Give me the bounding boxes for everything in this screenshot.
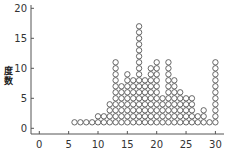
y-tick-label: 15 [14, 33, 27, 44]
dot [166, 66, 171, 71]
dot [136, 102, 141, 107]
dot [213, 96, 218, 101]
dot [207, 120, 212, 125]
dot [113, 60, 118, 65]
dot [136, 96, 141, 101]
dot [107, 108, 112, 113]
dot [172, 96, 177, 101]
dot-plot-chart: 05101520051015202530 度 数 [0, 0, 225, 157]
dot [213, 114, 218, 119]
dot [148, 84, 153, 89]
dot [148, 120, 153, 125]
dot [189, 108, 194, 113]
dot [131, 90, 136, 95]
dot [154, 90, 159, 95]
dot [136, 84, 141, 89]
dot [201, 114, 206, 119]
dot [166, 72, 171, 77]
dot [113, 96, 118, 101]
dot [101, 114, 106, 119]
dot [89, 120, 94, 125]
dot [166, 90, 171, 95]
dot [154, 96, 159, 101]
dot [113, 66, 118, 71]
dot [172, 108, 177, 113]
dot [113, 102, 118, 107]
dot [125, 102, 130, 107]
dot [119, 84, 124, 89]
dot [125, 84, 130, 89]
dot [148, 108, 153, 113]
dot [213, 108, 218, 113]
dot [195, 120, 200, 125]
dot [142, 78, 147, 83]
dot [125, 96, 130, 101]
dot [166, 114, 171, 119]
dot [189, 120, 194, 125]
dot [142, 120, 147, 125]
y-axis-label-bottom: 数 [4, 75, 14, 86]
dot [177, 96, 182, 101]
y-tick-label: 10 [14, 63, 27, 74]
dot [113, 90, 118, 95]
dot [172, 78, 177, 83]
dot [154, 84, 159, 89]
dot [213, 78, 218, 83]
dot [136, 30, 141, 35]
dot [113, 114, 118, 119]
x-tick-label: 30 [209, 139, 222, 150]
dot [125, 108, 130, 113]
dot [183, 102, 188, 107]
dot [177, 102, 182, 107]
dot [148, 78, 153, 83]
dot [125, 72, 130, 77]
dot [131, 78, 136, 83]
dot [78, 120, 83, 125]
dot [213, 66, 218, 71]
dot [195, 114, 200, 119]
dot [213, 120, 218, 125]
dot [142, 84, 147, 89]
dot [136, 72, 141, 77]
dot [136, 42, 141, 47]
dot [131, 96, 136, 101]
dot [136, 36, 141, 41]
axes: 05101520051015202530 [14, 3, 224, 150]
dot [119, 120, 124, 125]
dot [119, 114, 124, 119]
dot [213, 102, 218, 107]
dot [95, 120, 100, 125]
dot [136, 54, 141, 59]
dot [119, 96, 124, 101]
dot [148, 66, 153, 71]
dot [148, 114, 153, 119]
dot [154, 108, 159, 113]
dot [177, 120, 182, 125]
y-tick-label: 5 [21, 93, 27, 104]
dot [201, 120, 206, 125]
dot [113, 108, 118, 113]
dot [101, 120, 106, 125]
dot [183, 108, 188, 113]
dot [142, 108, 147, 113]
dot [142, 114, 147, 119]
dot [166, 78, 171, 83]
dot [113, 84, 118, 89]
x-tick-label: 0 [36, 139, 42, 150]
dot [154, 72, 159, 77]
dot [160, 96, 165, 101]
dot [119, 108, 124, 113]
dot [189, 102, 194, 107]
x-tick-label: 20 [150, 139, 163, 150]
dot [125, 114, 130, 119]
dot [213, 84, 218, 89]
dot [160, 120, 165, 125]
dot [154, 78, 159, 83]
dot [148, 102, 153, 107]
dot [107, 114, 112, 119]
x-tick-label: 25 [180, 139, 193, 150]
dots [72, 24, 218, 125]
dot [160, 102, 165, 107]
dot [113, 72, 118, 77]
dot [154, 102, 159, 107]
